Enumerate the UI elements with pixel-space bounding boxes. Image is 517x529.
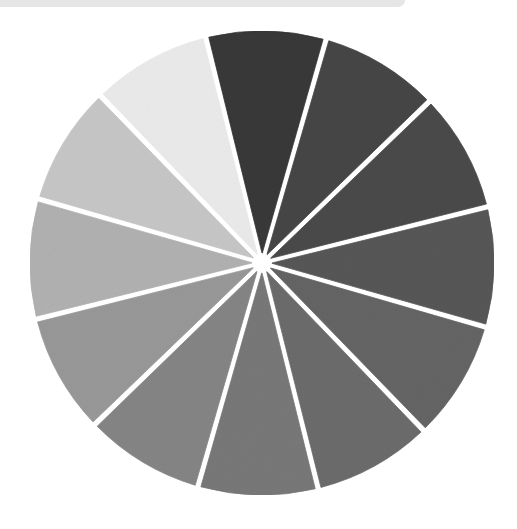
wheel-center-hub: [254, 255, 270, 271]
value-wheel-graphic: [0, 0, 517, 529]
value-wheel: Hand-painted grayscale value wheel with …: [0, 0, 517, 529]
